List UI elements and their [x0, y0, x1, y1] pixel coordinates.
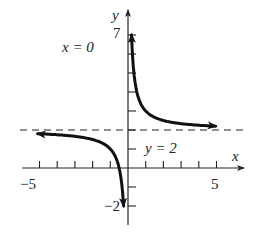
- y-min-tick-label: −2: [104, 198, 120, 214]
- rational-function-graph: y x 7 −2 −5 5 x = 0 y = 2: [0, 0, 255, 232]
- vertical-asymptote-label: x = 0: [61, 39, 94, 55]
- horizontal-asymptote-label: y = 2: [143, 140, 177, 156]
- y-max-tick-label: 7: [113, 25, 121, 41]
- curve-right-branch: [132, 35, 216, 126]
- x-min-tick-label: −5: [20, 176, 36, 192]
- x-max-tick-label: 5: [211, 176, 219, 192]
- curve-left-branch: [38, 134, 124, 206]
- y-axis-label: y: [110, 7, 119, 23]
- x-axis-label: x: [231, 148, 239, 164]
